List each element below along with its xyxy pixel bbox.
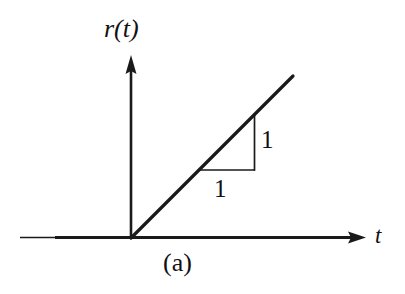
figure-caption: (a)	[163, 250, 192, 276]
y-axis-label: r(t)	[104, 16, 139, 42]
figure-canvas	[0, 0, 405, 294]
x-axis-label: t	[375, 224, 381, 247]
ramp-line	[131, 76, 293, 238]
ramp-function-figure: r(t) t 1 1 (a)	[0, 0, 405, 294]
slope-rise-label: 1	[261, 127, 274, 152]
slope-run-label: 1	[214, 176, 227, 201]
